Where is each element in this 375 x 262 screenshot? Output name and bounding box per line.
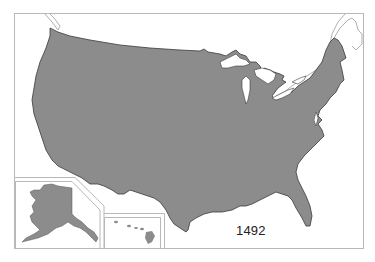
hawaii-island-molokai	[134, 227, 138, 229]
hawaii-island-maui	[140, 228, 144, 230]
us-map	[0, 0, 375, 262]
year-label: 1492	[236, 223, 266, 238]
hawaii-island-kauai	[114, 221, 118, 224]
hawaii-island-oahu	[127, 225, 131, 227]
